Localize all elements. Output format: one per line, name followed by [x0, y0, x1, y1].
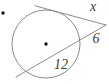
tangent-length-label: x — [89, 0, 97, 14]
geometry-figure: x 6 12 — [0, 0, 109, 84]
outer-point-dot — [1, 11, 4, 14]
tangent-secant-diagram: x 6 12 — [0, 0, 109, 84]
external-segment-length-label: 6 — [93, 31, 100, 46]
chord-length-label: 12 — [54, 57, 68, 72]
circle-center-dot — [44, 42, 47, 45]
